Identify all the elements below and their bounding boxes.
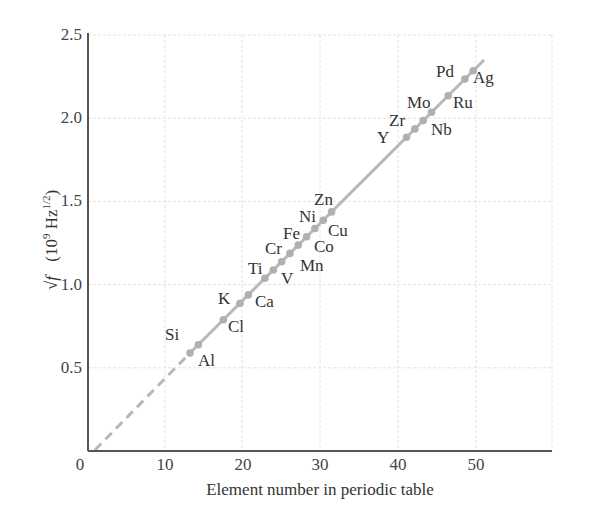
svg-text:√f (109 Hz1/2): √f (109 Hz1/2) (40, 190, 61, 290)
data-point (195, 341, 203, 349)
y-tick-label: 1.5 (61, 191, 82, 210)
element-label: V (281, 269, 294, 288)
x-tick-label: 0 (76, 455, 85, 474)
data-point (419, 117, 427, 125)
fit-line-solid (190, 60, 484, 353)
x-tick-label: 10 (157, 455, 174, 474)
element-label: Y (377, 128, 389, 147)
data-point (220, 316, 228, 324)
data-point (245, 291, 253, 299)
element-label: Ti (248, 259, 263, 278)
data-point (303, 233, 311, 241)
data-point (269, 266, 277, 274)
data-point (286, 250, 294, 258)
element-label: Ni (299, 207, 316, 226)
data-point (403, 133, 411, 141)
y-tick-label: 1.0 (61, 275, 82, 294)
data-point (186, 349, 194, 357)
element-label: Si (165, 325, 179, 344)
element-label: Cl (228, 317, 244, 336)
moseley-chart: AlSiClKCaTiVCrMnFeCoNiCuZnYZrNbMoRuPdAg … (0, 0, 609, 522)
element-label: Nb (431, 120, 452, 139)
y-axis-label: √f (109 Hz1/2) (40, 190, 61, 290)
y-label-root: √f (42, 274, 61, 290)
element-label: Pd (436, 62, 454, 81)
data-point (461, 75, 469, 83)
data-point (278, 258, 286, 266)
data-point (236, 299, 244, 307)
y-tick-label: 2.5 (61, 25, 82, 44)
element-label: Cr (265, 239, 282, 258)
element-label: Mo (407, 93, 431, 112)
element-labels: AlSiClKCaTiVCrMnFeCoNiCuZnYZrNbMoRuPdAg (165, 62, 494, 370)
element-label: Fe (283, 224, 300, 243)
element-label: Ag (473, 68, 494, 87)
y-tick-label: 0.5 (61, 358, 82, 377)
element-label: Zn (314, 190, 333, 209)
x-tick-label: 20 (235, 455, 252, 474)
element-label: Zr (389, 111, 405, 130)
x-tick-label: 50 (468, 455, 485, 474)
data-point (411, 125, 419, 133)
element-label: Al (198, 351, 215, 370)
element-label: Mn (300, 256, 324, 275)
element-label: Cu (328, 221, 348, 240)
y-tick-label: 2.0 (61, 108, 82, 127)
element-label: K (218, 289, 231, 308)
element-label: Ru (453, 93, 473, 112)
x-axis-label: Element number in periodic table (206, 480, 434, 499)
x-tick-label: 40 (390, 455, 407, 474)
x-tick-label: 30 (312, 455, 329, 474)
data-point (319, 216, 327, 224)
data-point (444, 92, 452, 100)
element-label: Ca (255, 292, 274, 311)
data-point (328, 208, 336, 216)
